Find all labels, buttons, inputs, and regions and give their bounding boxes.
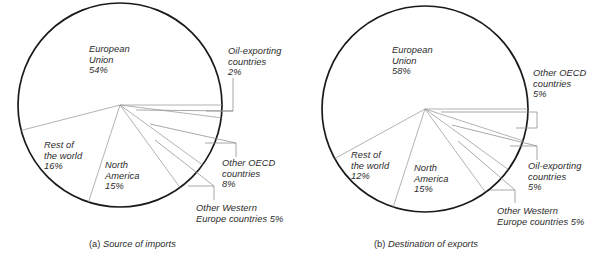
pie-b-label-other-oecd: Other OECDcountries5% [533,68,586,100]
pie-b-caption: (b) Destination of exports [374,239,478,250]
pie-a-label-north-america-line1: North [105,160,128,170]
pie-a-label-north-america-line3: 15% [105,181,124,191]
pie-a-caption-prefix: (a) [89,239,100,249]
pie-b-caption-text: Destination of exports [388,239,478,249]
pie-a-label-oil-exporting: Oil-exportingcountries2% [228,46,281,78]
pie-b-caption-prefix: (b) [374,239,385,249]
pie-b-label-north-america-line3: 15% [414,184,433,194]
pie-b-label-oil-exporting-line2: countries [528,172,566,182]
pie-b-label-oil-exporting: Oil-exportingcountries5% [528,161,581,193]
pie-a-label-european-union-line2: Union [89,55,114,65]
pie-b-label-other-oecd-line1: Other OECD [533,68,586,78]
pie-b-label-other-oecd-line3: 5% [533,89,547,99]
two-pie-chart-figure: EuropeanUnion54% Rest ofthe world16% Nor… [0,0,608,266]
pie-b-label-rest-of-the-world-line3: 12% [351,171,370,181]
pie-a-label-other-oecd: Other OECDcountries8% [222,158,275,190]
pie-b-label-rest-of-the-world: Rest ofthe world12% [351,150,389,182]
pie-a-label-other-western-europe: Other WesternEurope countries 5% [196,203,283,224]
pie-b-label-other-oecd-line2: countries [533,79,571,89]
pie-b-label-other-western-europe: Other WesternEurope countries 5% [497,206,584,227]
pie-a-label-oil-exporting-line2: countries [228,57,266,67]
pie-b-label-rest-of-the-world-line2: the world [351,161,389,171]
pie-b-label-european-union-line3: 58% [392,66,411,76]
pie-b-label-north-america-line1: North [414,163,437,173]
pie-a-label-european-union-line1: European [89,44,130,54]
pie-b-bracket-other-western-europe [490,190,515,203]
pie-a-caption: (a) Source of imports [89,239,176,250]
pie-a-label-other-oecd-line2: countries [222,169,260,179]
pie-b-label-other-western-europe-line2: Europe countries 5% [497,217,584,227]
pie-a-label-oil-exporting-line3: 2% [228,67,242,77]
pie-a-label-european-union-line3: 54% [89,65,108,75]
pie-b-label-oil-exporting-line1: Oil-exporting [528,161,581,171]
pie-b-label-european-union: EuropeanUnion58% [392,45,433,77]
pie-a-bracket-other-western-europe [188,186,214,200]
pie-a-label-oil-exporting-line1: Oil-exporting [228,46,281,56]
pie-b-label-north-america: NorthAmerica15% [414,163,448,195]
pie-a-label-north-america: NorthAmerica15% [105,160,139,192]
pie-a-label-rest-of-the-world-line2: the world [44,151,82,161]
pie-a-label-other-western-europe-line2: Europe countries 5% [196,214,283,224]
pie-a-caption-text: Source of imports [103,239,176,249]
pie-b-label-rest-of-the-world-line1: Rest of [351,150,381,160]
pie-a-label-other-oecd-line3: 8% [222,179,236,189]
pie-a-label-rest-of-the-world-line3: 16% [44,161,63,171]
pie-b-label-european-union-line2: Union [392,56,417,66]
pie-b-label-european-union-line1: European [392,45,433,55]
pie-a-label-rest-of-the-world-line1: Rest of [44,140,74,150]
pie-a-label-north-america-line2: America [105,171,139,181]
pie-b-label-oil-exporting-line3: 5% [528,182,542,192]
pie-b-label-other-western-europe-line1: Other Western [497,206,558,216]
pie-a-label-european-union: EuropeanUnion54% [89,44,130,76]
pie-b-label-north-america-line2: America [414,174,448,184]
pie-a-label-other-oecd-line1: Other OECD [222,158,275,168]
pie-a-label-rest-of-the-world: Rest ofthe world16% [44,140,82,172]
pie-a-label-other-western-europe-line1: Other Western [196,203,257,213]
